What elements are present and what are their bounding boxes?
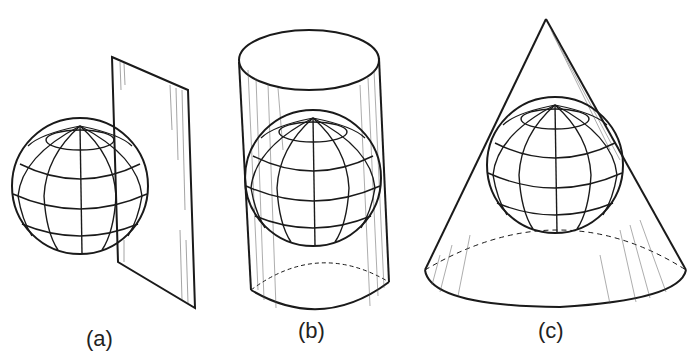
cylinder-bottom	[251, 282, 389, 309]
panel-a-label: (a)	[86, 326, 113, 352]
panel-c-label: (c)	[538, 318, 564, 344]
globe-icon	[245, 110, 381, 246]
globe-icon	[487, 97, 623, 233]
panel-a-plane	[12, 57, 195, 308]
panel-c-cone	[425, 19, 686, 307]
panel-b-label: (b)	[298, 318, 325, 344]
cone-base	[425, 270, 686, 307]
plane-surface	[112, 57, 195, 308]
globe-icon	[12, 118, 148, 254]
panel-b-cylinder	[239, 30, 389, 309]
projection-surfaces-diagram	[0, 0, 696, 359]
cylinder-top	[239, 30, 379, 90]
